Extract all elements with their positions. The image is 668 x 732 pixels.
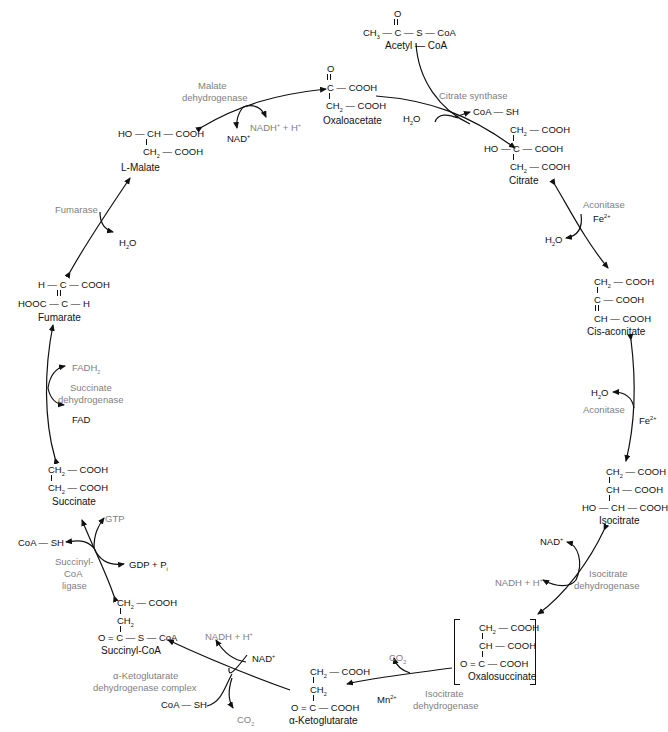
cis-row2: C — COOH: [594, 294, 644, 305]
fum-row2: HOOC — C — H: [18, 298, 90, 309]
arrow-nadh-out-akgdh: [216, 640, 246, 662]
mn-cofactor: Mn2+: [377, 692, 396, 705]
succinyl-coa-name: Succinyl-CoA: [101, 645, 161, 656]
fe-cofactor-1: Fe2+: [593, 211, 610, 224]
akg-row3: O = C — COOH: [291, 702, 359, 713]
double-bond: [57, 290, 61, 296]
enzyme-isocitrate-dh-1b: dehydrogenase: [574, 580, 640, 591]
arrow-succinate-fumarate: [46, 325, 55, 458]
enzyme-sdh-b: dehydrogenase: [58, 394, 124, 405]
coa-sh-reactant-akgdh: CoA — SH: [161, 699, 207, 710]
enzyme-akgdh-a: α-Ketoglutarate: [113, 670, 178, 681]
left-bracket: [454, 619, 460, 685]
citrate-row2: HO — C — COOH: [484, 143, 563, 154]
fum-row1: H — C — COOH: [38, 279, 110, 290]
enzyme-scl-a: Succinyl-: [55, 556, 94, 567]
cis-aconitate-name: Cis-aconitate: [587, 326, 645, 337]
enzyme-fumarase: Fumarase: [55, 204, 98, 215]
arrow-oaa-to-citrate: [376, 96, 515, 148]
h2o-product-aco1: H2O: [545, 234, 562, 250]
fad-reactant: FAD: [72, 414, 90, 425]
enzyme-mdh-a: Malate: [198, 80, 227, 91]
arrow-citrate-cisaconitate: [555, 185, 608, 268]
coa-sh-product-scl: CoA — SH: [18, 537, 64, 548]
enzyme-isocitrate-dh-1a: Isocitrate: [589, 568, 628, 579]
h2o-fumarase: H2O: [119, 237, 136, 253]
single-bond: [146, 139, 147, 145]
arrow-h2o-in-cs: [435, 115, 458, 122]
double-bond: [595, 305, 599, 311]
mal-row2: CH2 — COOH: [143, 146, 203, 162]
isocitrate-name: Isocitrate: [599, 515, 640, 526]
arrow-nadh-out-mdh: [243, 106, 266, 117]
acetyl-coa-name: Acetyl — CoA: [385, 40, 447, 51]
arrow-cisaconitate-isocitrate: [626, 340, 634, 461]
enzyme-akgdh-b: dehydrogenase complex: [93, 682, 197, 693]
gtp-product: GTP: [105, 513, 125, 524]
fumarate-name: Fumarate: [38, 312, 81, 323]
mal-row1: HO — CH — COOH: [118, 128, 204, 139]
scoa-row1: CH2 — COOH: [117, 597, 177, 613]
arrow-coash-out-scl: [66, 541, 94, 548]
nad-reactant-mdh: NAD+: [227, 131, 250, 144]
suc-row1: CH2 — COOH: [48, 464, 108, 480]
arrow-fadh2-out: [48, 366, 65, 388]
oxalosuccinate-name: Oxalosuccinate: [468, 671, 536, 682]
single-bond: [609, 477, 610, 483]
oxs-row3: O = C — COOH: [460, 658, 528, 669]
enzyme-sdh-a: Succinate: [70, 382, 112, 393]
single-bond: [513, 154, 514, 160]
single-bond: [482, 651, 483, 657]
arrow-acetylcoa-in: [416, 43, 470, 124]
enzyme-aconitase-2: Aconitase: [583, 404, 625, 415]
fe-cofactor-2: Fe2+: [639, 413, 656, 426]
carbonyl-o: O: [327, 63, 334, 74]
arrow-co2-out-akgdh: [229, 678, 233, 708]
arrow-fumarate-malate: [70, 178, 130, 272]
enzyme-isocitrate-dh-2a: Isocitrate: [425, 688, 464, 699]
enzyme-aconitase-1: Aconitase: [583, 199, 625, 210]
fadh2-product: FADH2: [72, 362, 100, 378]
arrow-gdp-in: [94, 548, 124, 564]
iso-row1: CH2 — COOH: [606, 466, 666, 482]
iso-row2: CH — COOH: [606, 484, 663, 495]
akg-row1: CH2 — COOH: [310, 666, 370, 682]
oaa-row2: CH2 — COOH: [326, 100, 386, 116]
cis-row1: CH2 — COOH: [594, 276, 654, 292]
arrow-nad-in-icdh: [567, 542, 580, 580]
oxaloacetate-name: Oxaloacetate: [323, 115, 382, 126]
double-bond: [327, 74, 331, 80]
co2-product-akgdh: CO2: [237, 714, 254, 730]
scoa-row3: O = C — S — CoA: [98, 632, 177, 643]
single-bond: [120, 608, 121, 614]
cis-row3: CH — COOH: [594, 313, 651, 324]
iso-row3: HO — CH — COOH: [582, 502, 668, 513]
single-bond: [313, 677, 314, 683]
single-bond: [482, 633, 483, 639]
succinate-name: Succinate: [52, 496, 96, 507]
single-bond: [51, 475, 52, 481]
nadh-product-akgdh: NADH + H+: [205, 629, 253, 642]
enzyme-mdh-b: dehydrogenase: [182, 92, 248, 103]
alpha-ketoglutarate-name: α-Ketoglutarate: [289, 715, 358, 726]
carbonyl-o: O: [394, 8, 401, 19]
h2o-reactant-aco2: H2O: [591, 387, 608, 403]
arrow-nad-in-mdh: [237, 107, 243, 128]
oxs-row1: CH2 — COOH: [479, 622, 539, 638]
coa-sh-product: CoA — SH: [473, 106, 519, 117]
nadh-product-icdh: NADH + H+: [495, 575, 543, 588]
single-bond: [597, 287, 598, 293]
h2o-reactant-cs: H2O: [403, 113, 420, 129]
double-bond: [394, 19, 398, 25]
citrate-row1: CH2 — COOH: [510, 124, 570, 140]
arrow-h2o-fumarase: [100, 212, 113, 232]
enzyme-scl-b: CoA: [64, 568, 82, 579]
oxs-row2: CH — COOH: [479, 640, 536, 651]
nad-reactant-icdh: NAD+: [540, 534, 563, 547]
l-malate-name: L-Malate: [121, 162, 160, 173]
enzyme-scl-c: ligase: [62, 580, 87, 591]
citrate-name: Citrate: [509, 175, 538, 186]
nadh-product-mdh: NADH+ + H+: [250, 120, 301, 133]
nad-reactant-akgdh: NAD+: [252, 651, 275, 664]
single-bond: [513, 135, 514, 141]
